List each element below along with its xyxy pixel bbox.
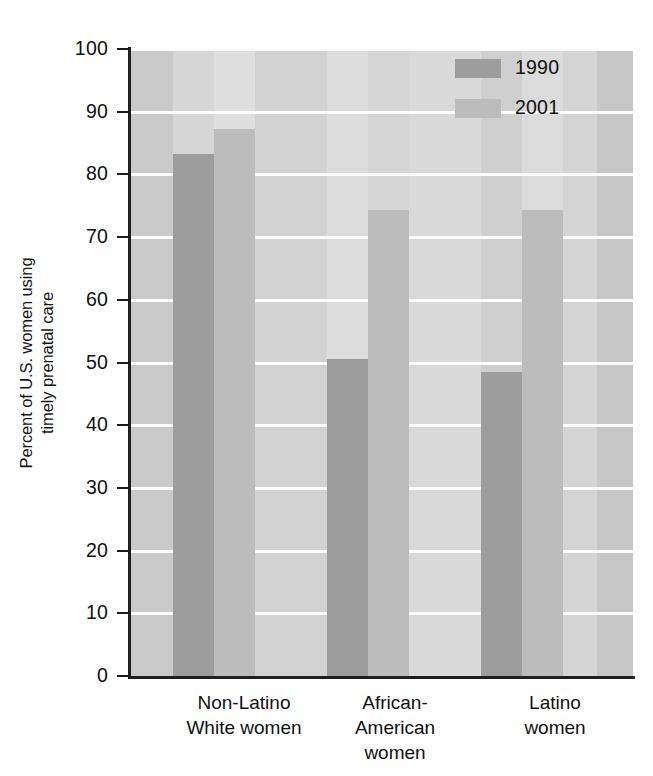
y-tick-label-100: 100: [62, 39, 108, 59]
legend-swatch-2001: [455, 99, 501, 118]
y-axis-title-line-1: Percent of U.S. women using: [16, 257, 37, 468]
y-tick-mark-70: [117, 236, 130, 238]
y-tick-mark-50: [117, 362, 130, 364]
y-axis-title: Percent of U.S. women using timely prena…: [14, 49, 60, 676]
bar-1990-group-3: [481, 372, 522, 676]
y-tick-label-20: 20: [62, 541, 108, 561]
y-tick-label-10: 10: [62, 603, 108, 623]
bar-1990-group-2: [327, 359, 368, 676]
y-tick-mark-60: [117, 299, 130, 301]
y-tick-label-0: 0: [62, 666, 108, 686]
y-tick-mark-80: [117, 173, 130, 175]
y-tick-mark-40: [117, 424, 130, 426]
bar-chart-figure: Percent of U.S. women using timely prena…: [0, 0, 653, 776]
x-axis-label-group-3: Latinowomen: [455, 690, 653, 740]
y-tick-label-30: 30: [62, 478, 108, 498]
y-tick-label-80: 80: [62, 164, 108, 184]
x-axis-label-group-3-line-2: women: [455, 715, 653, 740]
y-tick-mark-100: [117, 48, 130, 50]
bar-2001-group-1: [214, 129, 255, 676]
x-axis-category-labels: Non-LatinoWhite womenAfrican-Americanwom…: [131, 690, 633, 776]
legend-label-2001: 2001: [515, 98, 559, 118]
legend-item-1990: 1990: [455, 48, 635, 88]
bar-2001-group-3: [522, 210, 563, 676]
y-tick-label-50: 50: [62, 353, 108, 373]
y-tick-mark-30: [117, 487, 130, 489]
y-tick-label-40: 40: [62, 415, 108, 435]
plot-area: [131, 49, 633, 676]
x-axis-line: [128, 676, 635, 679]
bar-1990-group-1: [173, 154, 214, 676]
y-tick-mark-10: [117, 612, 130, 614]
legend: 1990 2001: [455, 48, 635, 128]
y-tick-mark-0: [117, 675, 130, 677]
y-tick-mark-90: [117, 111, 130, 113]
y-tick-label-70: 70: [62, 227, 108, 247]
y-axis-tick-labels: 0102030405060708090100: [62, 0, 108, 776]
bar-2001-group-2: [368, 210, 409, 676]
x-axis-label-group-3-line-1: Latino: [455, 690, 653, 715]
y-tick-label-60: 60: [62, 290, 108, 310]
y-tick-mark-20: [117, 550, 130, 552]
y-tick-label-90: 90: [62, 102, 108, 122]
legend-item-2001: 2001: [455, 88, 635, 128]
y-axis-title-line-2: timely prenatal care: [37, 257, 58, 468]
legend-swatch-1990: [455, 59, 501, 78]
x-axis-label-group-2-line-3: women: [295, 740, 495, 765]
legend-label-1990: 1990: [515, 58, 559, 78]
